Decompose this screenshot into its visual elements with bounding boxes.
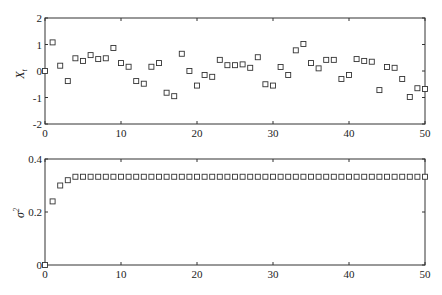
data-point-square-marker <box>96 174 101 179</box>
x-tick-label: 0 <box>42 127 48 139</box>
data-point-square-marker <box>195 83 200 88</box>
data-point-square-marker <box>263 82 268 87</box>
data-point-square-marker <box>225 174 230 179</box>
y-tick-label: -2 <box>33 118 42 130</box>
data-point-square-marker <box>43 263 48 268</box>
data-point-square-marker <box>157 61 162 66</box>
data-point-square-marker <box>324 174 329 179</box>
data-point-square-marker <box>316 66 321 71</box>
data-point-square-marker <box>347 72 352 77</box>
x-tick-label: 0 <box>42 268 48 280</box>
x-tick-label: 50 <box>420 127 432 139</box>
data-point-square-marker <box>81 58 86 63</box>
data-point-square-marker <box>217 174 222 179</box>
data-point-square-marker <box>233 174 238 179</box>
data-point-square-marker <box>179 174 184 179</box>
data-point-square-marker <box>400 174 405 179</box>
data-point-square-marker <box>248 65 253 70</box>
x-tick-label: 20 <box>192 268 204 280</box>
data-point-square-marker <box>331 57 336 62</box>
data-point-square-marker <box>301 41 306 46</box>
data-point-square-marker <box>202 174 207 179</box>
data-point-square-marker <box>255 174 260 179</box>
data-point-square-marker <box>354 174 359 179</box>
data-point-square-marker <box>65 178 70 183</box>
data-point-square-marker <box>286 72 291 77</box>
data-point-square-marker <box>407 174 412 179</box>
data-point-square-marker <box>271 83 276 88</box>
data-point-square-marker <box>210 174 215 179</box>
data-point-square-marker <box>263 174 268 179</box>
data-point-square-marker <box>73 174 78 179</box>
y-tick-label: 0.2 <box>28 206 42 218</box>
bottom-panel-sigma2: 0102030405000.20.4 <box>28 153 431 280</box>
x-tick-label: 10 <box>116 127 128 139</box>
data-point-square-marker <box>423 174 428 179</box>
data-point-square-marker <box>324 57 329 62</box>
data-point-square-marker <box>423 87 428 92</box>
data-point-square-marker <box>96 57 101 62</box>
data-point-square-marker <box>50 199 55 204</box>
data-point-square-marker <box>43 69 48 74</box>
data-point-square-marker <box>149 174 154 179</box>
data-point-square-marker <box>400 76 405 81</box>
data-point-square-marker <box>141 174 146 179</box>
data-point-square-marker <box>119 61 124 66</box>
data-point-square-marker <box>293 48 298 53</box>
x-tick-label: 50 <box>420 268 432 280</box>
y-tick-label: 0 <box>37 65 43 77</box>
x-tick-label: 20 <box>192 127 204 139</box>
y-tick-label: 0 <box>37 259 43 271</box>
data-point-square-marker <box>217 57 222 62</box>
data-point-square-marker <box>362 58 367 63</box>
data-point-square-marker <box>293 174 298 179</box>
data-point-square-marker <box>172 174 177 179</box>
data-point-square-marker <box>331 174 336 179</box>
plot-frame <box>45 18 425 124</box>
data-point-square-marker <box>58 63 63 68</box>
data-point-square-marker <box>339 174 344 179</box>
data-point-square-marker <box>316 174 321 179</box>
x-tick-label: 30 <box>268 127 280 139</box>
data-point-square-marker <box>164 90 169 95</box>
x-tick-label: 40 <box>344 127 356 139</box>
data-point-square-marker <box>392 174 397 179</box>
data-point-square-marker <box>309 174 314 179</box>
data-point-square-marker <box>392 65 397 70</box>
data-point-square-marker <box>271 174 276 179</box>
data-point-square-marker <box>301 174 306 179</box>
data-point-square-marker <box>309 61 314 66</box>
data-point-square-marker <box>65 79 70 84</box>
data-point-square-marker <box>179 51 184 56</box>
data-point-square-marker <box>134 79 139 84</box>
data-point-square-marker <box>81 174 86 179</box>
data-point-square-marker <box>149 64 154 69</box>
data-point-square-marker <box>103 174 108 179</box>
data-point-square-marker <box>73 56 78 61</box>
bottom-ylabel: σ2 <box>12 208 27 218</box>
data-point-square-marker <box>415 174 420 179</box>
data-point-square-marker <box>187 69 192 74</box>
data-point-square-marker <box>240 62 245 67</box>
data-point-square-marker <box>278 65 283 70</box>
data-point-square-marker <box>172 94 177 99</box>
figure: 01020304050-2-1012 0102030405000.20.4 Xt… <box>0 0 442 295</box>
data-point-square-marker <box>119 174 124 179</box>
data-point-square-marker <box>126 64 131 69</box>
data-point-square-marker <box>278 174 283 179</box>
data-point-square-marker <box>58 183 63 188</box>
y-tick-label: 2 <box>37 12 43 24</box>
data-point-square-marker <box>111 45 116 50</box>
data-point-square-marker <box>377 174 382 179</box>
data-point-square-marker <box>362 174 367 179</box>
data-point-square-marker <box>88 174 93 179</box>
y-tick-label: 0.4 <box>28 153 42 165</box>
data-point-square-marker <box>347 174 352 179</box>
data-point-square-marker <box>385 174 390 179</box>
data-point-square-marker <box>225 63 230 68</box>
data-point-square-marker <box>88 53 93 58</box>
data-point-square-marker <box>407 94 412 99</box>
top-panel-xt: 01020304050-2-1012 <box>33 12 431 139</box>
data-point-square-marker <box>255 55 260 60</box>
data-point-square-marker <box>157 174 162 179</box>
